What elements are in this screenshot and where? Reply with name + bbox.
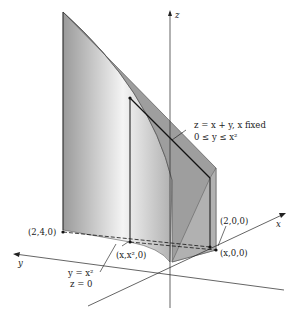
x-axis-arrow-icon — [279, 213, 286, 218]
point-2-4-0 — [61, 230, 64, 233]
cylinder-surface — [63, 12, 172, 262]
top-point — [128, 96, 131, 99]
leader-curve — [100, 244, 116, 272]
surface-label-line2: 0 ≤ y ≤ x² — [194, 132, 237, 142]
z-axis-arrow-icon — [168, 10, 172, 16]
diagram-canvas: z x y z = x + y, x fixed 0 ≤ y ≤ x² (2,0… — [0, 0, 301, 322]
y-axis-arrow-icon — [13, 252, 20, 257]
curve-label-line2: z = 0 — [70, 279, 92, 289]
z-axis-label: z — [174, 10, 180, 20]
label-2-0-0: (2,0,0) — [220, 216, 248, 226]
label-2-4-0: (2,4,0) — [28, 227, 56, 237]
curve-label-line1: y = x² — [67, 268, 94, 278]
surface-label-line1: z = x + y, x fixed — [194, 120, 266, 130]
x-axis-label: x — [276, 219, 281, 229]
label-x-x2-0: (x,x²,0) — [116, 250, 146, 260]
label-x-0-0: (x,0,0) — [220, 248, 248, 258]
point-x-0-0 — [208, 245, 211, 248]
point-2-0-0 — [214, 248, 217, 251]
y-axis-label: y — [17, 258, 23, 268]
point-x-x2-0 — [128, 240, 131, 243]
leader-xx20 — [122, 242, 128, 246]
y-axis — [15, 254, 284, 290]
